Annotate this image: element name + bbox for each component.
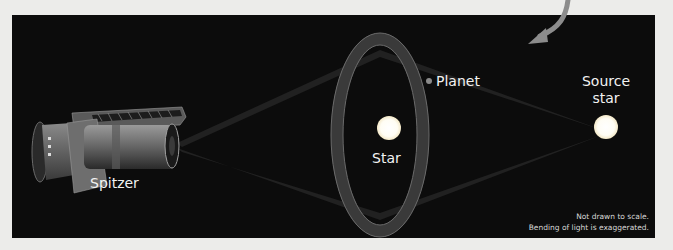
source-star bbox=[594, 115, 618, 139]
scale-note-line1: Not drawn to scale. bbox=[529, 211, 649, 222]
curved-arrow-icon bbox=[0, 0, 673, 60]
light-beam-lower bbox=[177, 135, 602, 220]
lens-star bbox=[377, 116, 401, 140]
source-star-label: Source star bbox=[578, 73, 634, 107]
scale-note: Not drawn to scale. Bending of light is … bbox=[529, 211, 649, 233]
planet-label: Planet bbox=[436, 73, 480, 90]
star-label: Star bbox=[372, 150, 401, 167]
source-star-label-line1: Source bbox=[578, 73, 634, 90]
spitzer-label: Spitzer bbox=[90, 175, 139, 192]
planet bbox=[426, 78, 432, 84]
scale-note-line2: Bending of light is exaggerated. bbox=[529, 222, 649, 233]
source-star-label-line2: star bbox=[578, 90, 634, 107]
